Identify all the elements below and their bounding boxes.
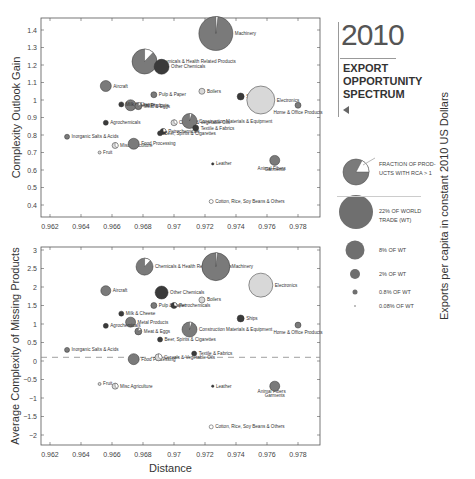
point-label: Cotton, Rice, Soy Beans & Others — [215, 424, 285, 429]
point-label: Garments — [265, 393, 286, 398]
y-tick-label: 0.7 — [27, 149, 37, 156]
y-tick-label: 0.6 — [27, 167, 37, 174]
data-point[interactable]: Pulp & Paper — [151, 92, 187, 98]
chart-complexity-outlook-gain: 0.9620.9640.9660.9680.970.9720.9740.9760… — [10, 17, 323, 231]
data-point[interactable]: Ships — [237, 315, 258, 322]
data-point[interactable]: Meat & Eggs — [135, 103, 171, 110]
point-label: Meat & Eggs — [144, 104, 171, 109]
point-label: Textile & Fabrics — [201, 126, 235, 131]
data-point[interactable]: Meat & Eggs — [135, 328, 171, 335]
x-tick-label: 0.964 — [72, 451, 90, 458]
point-label: Food Processing — [141, 141, 176, 146]
point-label: Boilers — [207, 297, 222, 302]
x-tick-label: 0.976 — [258, 223, 276, 230]
point-label: Ships — [246, 316, 258, 321]
point-label: Machinery — [232, 264, 254, 269]
point-label: Beer, Spirits & Cigarettes — [165, 131, 217, 136]
y-tick-label: 1.3 — [27, 44, 37, 51]
point-label: Inorganic Salts & Acids — [72, 347, 120, 352]
data-point[interactable]: Fruit — [98, 150, 113, 155]
y-tick-label: −0.5 — [23, 376, 37, 383]
point-label: Leather — [216, 384, 232, 389]
data-point[interactable]: Leather — [212, 384, 232, 389]
data-point[interactable]: Aircraft — [100, 81, 128, 92]
x-tick-label: 0.976 — [258, 451, 276, 458]
data-point[interactable]: Home & Office Products — [273, 102, 323, 115]
point-label: Textile & Fabrics — [199, 351, 233, 356]
data-point[interactable]: Chemicals & Health Related Products — [132, 49, 237, 74]
y-tick-label: 0.4 — [27, 202, 37, 209]
data-point[interactable]: Inorganic Salts & Acids — [65, 347, 120, 352]
point-label: Construction Materials & Equipment — [199, 327, 273, 332]
y-tick-label: −2 — [29, 432, 37, 439]
x-tick-label: 0.972 — [196, 223, 214, 230]
data-point[interactable]: Beer, Spirits & Cigarettes — [158, 131, 217, 136]
y-tick-label: 0.5 — [27, 339, 37, 346]
y-tick-label: 0.8 — [27, 132, 37, 139]
point-label: Metal Products — [138, 320, 169, 325]
data-point[interactable]: Cotton, Rice, Soy Beans & Others — [209, 199, 285, 204]
x-tick-label: 0.966 — [103, 223, 121, 230]
point-label: Cotton, Rice, Soy Beans & Others — [215, 199, 285, 204]
data-point[interactable]: Misc Agriculture — [112, 383, 153, 389]
point-label: Inorganic Salts & Acids — [72, 134, 120, 139]
y-tick-label: −1 — [29, 395, 37, 402]
data-point[interactable]: Construction Materials & Equipment — [182, 322, 273, 337]
point-label: Misc Agriculture — [120, 384, 153, 389]
x-tick-label: 0.968 — [134, 223, 152, 230]
point-label: Agrochemicals — [110, 323, 141, 328]
x-tick-label: 0.97 — [167, 451, 181, 458]
point-label: Machinery — [235, 31, 257, 36]
data-point[interactable]: Agrochemicals — [103, 120, 141, 125]
y-tick-label: 2 — [33, 284, 37, 291]
y-tick-label: 1.4 — [27, 27, 37, 34]
data-point[interactable]: Garments — [265, 155, 286, 172]
charts-canvas: 0.9620.9640.9660.9680.970.9720.9740.9760… — [0, 0, 475, 479]
point-label: Beer, Spirits & Cigarettes — [165, 337, 217, 342]
point-label: Home & Office Products — [273, 330, 323, 335]
y-tick-label: 0.9 — [27, 114, 37, 121]
point-label: Electronics — [277, 98, 300, 103]
x-tick-label: 0.966 — [103, 451, 121, 458]
data-point[interactable]: Beer, Spirits & Cigarettes — [158, 337, 217, 342]
y-axis-title: Complexity Outlook Gain — [10, 57, 22, 179]
y-axis-title: Average Complexity of Missing Products — [9, 247, 21, 445]
point-label: Home & Office Products — [273, 110, 323, 115]
data-point[interactable]: Textile & Fabrics — [192, 351, 233, 356]
data-point[interactable]: Fruit — [98, 381, 113, 386]
data-point[interactable]: Machinery — [199, 17, 257, 51]
data-point[interactable]: Aircraft — [101, 286, 128, 296]
data-point[interactable]: Cotton, Rice, Soy Beans & Others — [209, 424, 285, 429]
chart-average-complexity-missing: 0.9620.9640.9660.9680.970.9720.9740.9760… — [9, 247, 323, 475]
point-label: Fruit — [103, 381, 113, 386]
point-label: Milk & Cheese — [126, 311, 156, 316]
x-axis-title: Distance — [149, 462, 192, 474]
y-tick-label: −1.5 — [23, 413, 37, 420]
data-point[interactable]: Home & Office Products — [273, 322, 323, 335]
point-label: Fruit — [103, 150, 113, 155]
data-point[interactable]: Machinery — [202, 253, 254, 281]
y-tick-label: 1.1 — [27, 79, 37, 86]
data-point[interactable]: Boilers — [199, 297, 222, 303]
plot-frame — [41, 247, 320, 445]
y-tick-label: 3 — [33, 247, 37, 254]
point-label: Aircraft — [113, 288, 128, 293]
point-label: Garments — [265, 167, 286, 172]
data-point[interactable]: Boilers — [199, 88, 222, 94]
point-label: Pulp & Paper — [159, 92, 187, 97]
y-tick-label: 1 — [33, 97, 37, 104]
point-label: Other Chemicals — [171, 64, 206, 69]
x-tick-label: 0.978 — [289, 451, 307, 458]
data-point[interactable]: Inorganic Salts & Acids — [65, 134, 120, 139]
plot-frame — [41, 18, 320, 217]
point-label: Petrochemicals — [179, 303, 211, 308]
data-point[interactable]: Leather — [212, 161, 232, 166]
data-point[interactable]: Agrochemicals — [103, 323, 141, 328]
point-label: Chemicals & Health Related Products — [159, 59, 237, 64]
data-point[interactable]: Electronics — [249, 273, 298, 297]
x-tick-label: 0.97 — [167, 223, 181, 230]
x-tick-label: 0.962 — [41, 451, 59, 458]
data-point[interactable]: Milk & Cheese — [119, 311, 156, 316]
data-point[interactable]: Other Chemicals — [155, 286, 205, 299]
point-label: Aircraft — [113, 84, 128, 89]
